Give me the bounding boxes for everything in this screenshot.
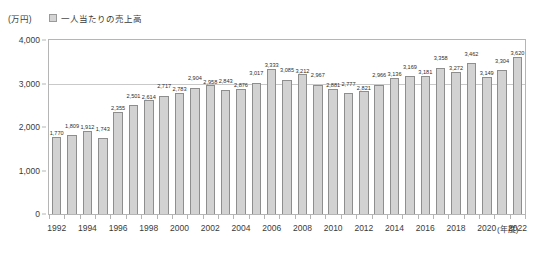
- bar-value-label: 3,136: [388, 72, 402, 78]
- bar-slot: 2,717: [157, 40, 172, 214]
- x-tick-label: 2006: [262, 223, 281, 233]
- x-tick-label: 1996: [109, 223, 128, 233]
- bar-value-label: 3,358: [434, 56, 448, 62]
- x-axis-slot: 1996: [110, 215, 125, 235]
- bar-slot: 1,743: [95, 40, 110, 214]
- bar-slot: 2,843: [218, 40, 233, 214]
- y-tick-label: 1,000: [19, 166, 40, 176]
- bar-slot: 2,967: [310, 40, 325, 214]
- bar[interactable]: 3,085: [282, 80, 292, 214]
- y-tick-mark: [42, 83, 46, 84]
- bar-value-label: 2,783: [173, 87, 187, 93]
- bar-slot: 1,912: [80, 40, 95, 214]
- bar[interactable]: 1,912: [83, 131, 93, 214]
- bar-slot: 2,614: [141, 40, 156, 214]
- bar-value-label: 1,809: [65, 124, 79, 130]
- bar[interactable]: 2,614: [144, 100, 154, 214]
- chart-container: (万円) 一人当たりの売上高 01,0002,0003,0004,000 1,7…: [0, 0, 533, 256]
- bar-value-label: 3,017: [249, 71, 263, 77]
- bar[interactable]: 3,358: [436, 68, 446, 214]
- bar[interactable]: 2,821: [359, 91, 369, 214]
- bar[interactable]: 3,169: [405, 76, 415, 214]
- bar-value-label: 2,843: [219, 79, 233, 85]
- y-axis-unit-label: (万円): [8, 12, 32, 24]
- bar[interactable]: 2,967: [313, 85, 323, 214]
- x-tick-mark: [525, 215, 526, 219]
- bar-value-label: 3,620: [510, 51, 524, 57]
- bar[interactable]: 3,304: [497, 70, 507, 214]
- bar-value-label: 3,333: [265, 63, 279, 69]
- bar[interactable]: 3,149: [482, 77, 492, 214]
- bar[interactable]: 2,966: [374, 85, 384, 214]
- bar[interactable]: 3,181: [421, 76, 431, 214]
- bar[interactable]: 2,501: [129, 105, 139, 214]
- bar[interactable]: 3,136: [390, 78, 400, 214]
- x-tick-mark: [433, 215, 434, 219]
- x-tick-mark: [126, 215, 127, 219]
- bar[interactable]: 3,462: [467, 63, 477, 214]
- bar-slot: 3,333: [264, 40, 279, 214]
- bar-slot: 2,958: [203, 40, 218, 214]
- bar[interactable]: 1,809: [67, 135, 77, 214]
- bar-slot: 2,904: [187, 40, 202, 214]
- x-tick-mark: [172, 215, 173, 219]
- x-axis-slot: 2008: [295, 215, 310, 235]
- bar-value-label: 3,212: [295, 69, 309, 75]
- bar-value-label: 2,881: [326, 83, 340, 89]
- legend-swatch-icon: [49, 14, 57, 22]
- bar[interactable]: 2,843: [221, 90, 231, 214]
- bar-value-label: 2,614: [142, 95, 156, 101]
- bar[interactable]: 2,904: [190, 88, 200, 214]
- y-tick-mark: [42, 127, 46, 128]
- bar[interactable]: 3,212: [298, 74, 308, 214]
- x-axis-slot: 2018: [448, 215, 463, 235]
- bar-value-label: 3,272: [449, 66, 463, 72]
- bar[interactable]: 1,770: [52, 137, 62, 214]
- y-tick-mark: [42, 40, 46, 41]
- x-tick-mark: [49, 215, 50, 219]
- x-tick-mark: [510, 215, 511, 219]
- bar-value-label: 2,966: [372, 73, 386, 79]
- y-axis: 01,0002,0003,0004,000: [0, 33, 46, 221]
- bar[interactable]: 1,743: [98, 138, 108, 214]
- x-tick-mark: [157, 215, 158, 219]
- y-tick-label: 3,000: [19, 79, 40, 89]
- bar-value-label: 2,876: [234, 83, 248, 89]
- bar[interactable]: 3,620: [513, 57, 523, 214]
- x-tick-label: 2016: [416, 223, 435, 233]
- bar[interactable]: 3,333: [267, 69, 277, 214]
- bar-slot: 3,212: [295, 40, 310, 214]
- x-tick-mark: [387, 215, 388, 219]
- bar[interactable]: 3,272: [451, 72, 461, 214]
- x-tick-label: 2012: [354, 223, 373, 233]
- bar-value-label: 3,304: [495, 59, 509, 65]
- bar[interactable]: 3,017: [252, 83, 262, 214]
- x-tick-label: 2000: [170, 223, 189, 233]
- x-axis-slot: 1998: [141, 215, 156, 235]
- bar-value-label: 3,169: [403, 65, 417, 71]
- bar[interactable]: 2,876: [236, 89, 246, 214]
- bar[interactable]: 2,717: [159, 96, 169, 214]
- x-tick-mark: [448, 215, 449, 219]
- bar-value-label: 2,821: [357, 86, 371, 92]
- bar-slot: 3,017: [249, 40, 264, 214]
- bar-slot: 3,358: [433, 40, 448, 214]
- bar-slot: 1,809: [64, 40, 79, 214]
- bar-slot: 3,149: [479, 40, 494, 214]
- bar[interactable]: 2,777: [344, 93, 354, 214]
- x-tick-label: 1994: [78, 223, 97, 233]
- bar-value-label: 1,912: [80, 125, 94, 131]
- bar[interactable]: 2,355: [113, 112, 123, 214]
- x-tick-mark: [203, 215, 204, 219]
- x-axis-slot: 2002: [203, 215, 218, 235]
- bar-value-label: 1,743: [96, 127, 110, 133]
- bar-slot: 2,881: [325, 40, 340, 214]
- bar[interactable]: 2,881: [328, 89, 338, 214]
- bar-slot: 2,821: [356, 40, 371, 214]
- bar-slot: 3,085: [279, 40, 294, 214]
- x-tick-label: 2002: [201, 223, 220, 233]
- x-tick-mark: [464, 215, 465, 219]
- bar[interactable]: 2,783: [175, 93, 185, 214]
- x-axis-slot: 2010: [325, 215, 340, 235]
- bar[interactable]: 2,958: [206, 85, 216, 214]
